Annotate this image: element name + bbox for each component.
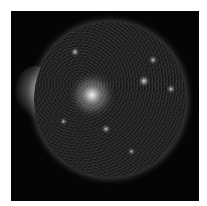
image-frame (11, 11, 199, 201)
bright-spot (73, 50, 77, 54)
disk-texture (34, 22, 186, 177)
bright-spot (104, 127, 108, 131)
bright-spot (151, 58, 155, 62)
solar-disk (34, 22, 186, 177)
bright-spot (169, 87, 173, 91)
bright-spot (130, 150, 133, 153)
active-region (81, 84, 103, 106)
bright-spot (62, 120, 65, 123)
bright-spot (141, 78, 147, 84)
